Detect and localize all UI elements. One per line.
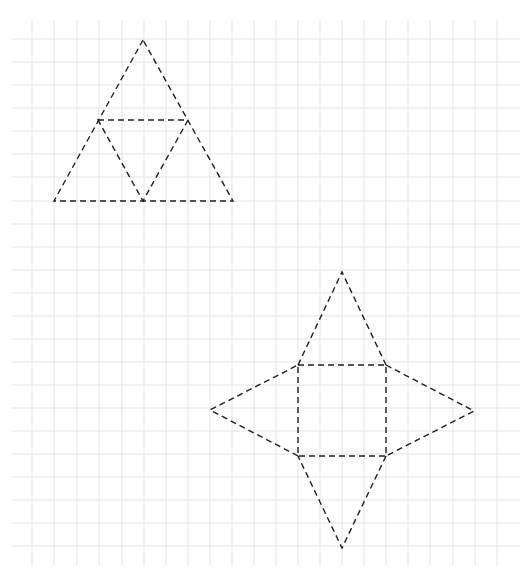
grid	[12, 20, 520, 566]
graph-paper-canvas	[0, 0, 529, 572]
inner-triangle	[98, 120, 188, 201]
figure-svg	[0, 0, 529, 572]
